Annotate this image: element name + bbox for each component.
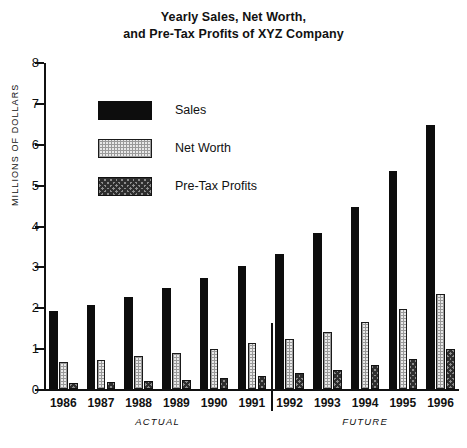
x-tick-label-1996: 1996 bbox=[427, 396, 454, 410]
x-tick-label-1987: 1987 bbox=[88, 396, 115, 410]
bar-group-1993 bbox=[313, 56, 342, 389]
period-label-actual: ACTUAL bbox=[135, 416, 180, 427]
bar-net-worth-1987 bbox=[97, 360, 106, 389]
bar-net-worth-1996 bbox=[436, 294, 445, 389]
legend-swatch-pre-tax-profits bbox=[98, 177, 152, 196]
legend-label: Sales bbox=[175, 103, 206, 117]
bar-pre-tax-profits-1990 bbox=[220, 378, 229, 389]
bar-pre-tax-profits-1987 bbox=[107, 382, 116, 389]
y-tick-label: 1 bbox=[32, 342, 39, 355]
bar-sales-1990 bbox=[200, 278, 209, 389]
chart-container: Yearly Sales, Net Worth, and Pre-Tax Pro… bbox=[0, 0, 467, 448]
bar-net-worth-1990 bbox=[210, 349, 219, 389]
bar-net-worth-1988 bbox=[134, 356, 143, 389]
legend-swatch-sales bbox=[98, 101, 152, 120]
bar-net-worth-1995 bbox=[399, 309, 408, 389]
y-tick-label: 7 bbox=[32, 96, 39, 109]
x-tick-label-1986: 1986 bbox=[50, 396, 77, 410]
y-tick-label: 4 bbox=[32, 219, 39, 232]
bar-sales-1994 bbox=[351, 207, 360, 389]
legend-item-pre-tax-profits: Pre-Tax Profits bbox=[98, 176, 257, 196]
period-label-future: FUTURE bbox=[342, 416, 388, 427]
chart-title: Yearly Sales, Net Worth, and Pre-Tax Pro… bbox=[0, 9, 467, 43]
bar-pre-tax-profits-1994 bbox=[371, 365, 380, 389]
bar-pre-tax-profits-1993 bbox=[333, 370, 342, 389]
bar-pre-tax-profits-1991 bbox=[258, 376, 267, 389]
bar-net-worth-1992 bbox=[285, 339, 294, 389]
bar-pre-tax-profits-1995 bbox=[409, 359, 418, 389]
x-tick-label-1990: 1990 bbox=[201, 396, 228, 410]
bar-sales-1995 bbox=[389, 171, 398, 389]
bar-group-1992 bbox=[275, 56, 304, 389]
x-tick-label-1988: 1988 bbox=[125, 396, 152, 410]
bar-sales-1992 bbox=[275, 254, 284, 389]
bar-pre-tax-profits-1986 bbox=[69, 383, 78, 389]
legend-label: Pre-Tax Profits bbox=[175, 179, 257, 193]
y-tick-label: 0 bbox=[32, 383, 39, 396]
y-tick-label: 8 bbox=[32, 56, 39, 69]
bar-sales-1993 bbox=[313, 233, 322, 389]
bar-sales-1987 bbox=[87, 305, 96, 389]
x-axis-labels: 1986198719881989199019911992199319941995… bbox=[46, 396, 461, 412]
chart-title-line-1: Yearly Sales, Net Worth, bbox=[0, 9, 467, 26]
legend-label: Net Worth bbox=[175, 141, 231, 155]
legend-swatch-net-worth bbox=[98, 139, 152, 158]
bar-pre-tax-profits-1989 bbox=[182, 380, 191, 389]
x-tick-label-1995: 1995 bbox=[389, 396, 416, 410]
x-tick-label-1992: 1992 bbox=[276, 396, 303, 410]
x-tick-label-1989: 1989 bbox=[163, 396, 190, 410]
x-tick-label-1994: 1994 bbox=[352, 396, 379, 410]
x-tick-label-1993: 1993 bbox=[314, 396, 341, 410]
bar-net-worth-1994 bbox=[361, 322, 370, 389]
bar-net-worth-1986 bbox=[59, 362, 68, 389]
x-axis-line bbox=[44, 389, 459, 391]
bar-group-1995 bbox=[389, 56, 418, 389]
bar-group-1996 bbox=[426, 56, 455, 389]
bar-net-worth-1991 bbox=[248, 343, 257, 389]
bar-sales-1988 bbox=[124, 297, 133, 389]
bar-group-1991 bbox=[238, 56, 267, 389]
y-tick-label: 6 bbox=[32, 137, 39, 150]
chart-title-line-2: and Pre-Tax Profits of XYZ Company bbox=[0, 26, 467, 43]
bar-group-1994 bbox=[351, 56, 380, 389]
legend-item-sales: Sales bbox=[98, 100, 206, 120]
bar-sales-1986 bbox=[49, 311, 58, 389]
bar-net-worth-1989 bbox=[172, 353, 181, 389]
bar-pre-tax-profits-1988 bbox=[144, 381, 153, 389]
bar-pre-tax-profits-1996 bbox=[446, 349, 455, 389]
bar-group-1986 bbox=[49, 56, 78, 389]
x-tick-label-1991: 1991 bbox=[239, 396, 266, 410]
y-axis-title: MILLIONS OF DOLLARS bbox=[10, 84, 20, 206]
bar-net-worth-1993 bbox=[323, 332, 332, 389]
legend-item-net-worth: Net Worth bbox=[98, 138, 231, 158]
y-tick-label: 3 bbox=[32, 260, 39, 273]
bar-sales-1989 bbox=[162, 288, 171, 389]
bar-pre-tax-profits-1992 bbox=[295, 373, 304, 389]
y-tick-label: 2 bbox=[32, 301, 39, 314]
y-tick-label: 5 bbox=[32, 178, 39, 191]
bar-sales-1991 bbox=[238, 266, 247, 389]
bar-sales-1996 bbox=[426, 125, 435, 389]
